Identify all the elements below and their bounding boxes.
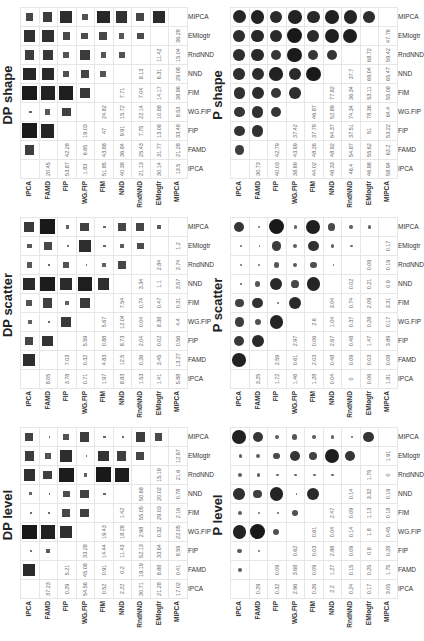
diagonal-cell [132,466,151,485]
value-cell: 38.96 [169,84,188,103]
marker-cell [58,46,77,65]
value-cell: 37.79 [305,122,324,141]
circle-marker-icon [368,225,371,228]
row-label: FIM [99,391,106,425]
square-marker-icon [80,88,90,98]
row-label: NND [328,181,335,215]
value-cell: 36.84 [113,141,132,160]
value-cell: 5.59 [76,332,95,351]
marker-cell [249,218,268,237]
chart-panel: DP scatter8.053.787.030.710.325.591.974.… [0,215,200,425]
value-cell: 0.32 [150,523,169,542]
marker-cell [76,218,95,237]
row-label: WG.FIP [291,391,298,425]
circle-marker-icon [270,278,282,290]
circle-marker-icon [291,280,299,288]
value-cell: 2.22 [113,580,132,599]
square-marker-icon [23,278,35,290]
diagonal-cell [58,332,77,351]
value-cell: 46.4 [342,160,361,179]
circle-marker-icon [240,264,242,266]
circle-marker-icon [290,451,300,461]
marker-cell [231,8,250,27]
row-label: FAMD [254,181,261,215]
marker-cell [268,523,287,542]
marker-cell [305,65,324,84]
value-cell: 50.68 [132,485,151,504]
value-cell: 54.87 [342,141,361,160]
marker-cell [76,256,95,275]
value-cell: 0.28 [379,542,398,561]
row-label: IPCA [235,391,242,425]
row-label: NND [328,601,335,635]
marker-cell [132,447,151,466]
circle-marker-icon [237,549,241,553]
value-cell: 0.14 [342,523,361,542]
marker-cell [249,485,268,504]
marker-cell [231,141,250,160]
column-label: EMlogtr [188,32,210,39]
value-cell: 1.28 [305,370,324,389]
circle-marker-icon [292,434,297,439]
column-label: FAMD [188,356,206,363]
circle-marker-icon [271,50,281,60]
value-cell: 14.44 [95,542,114,561]
marker-cell [249,466,268,485]
chart-title: P level [210,455,225,575]
square-marker-icon [100,71,106,77]
diagonal-cell [231,370,250,389]
value-cell: 46.33 [323,160,342,179]
circle-marker-icon [273,529,279,535]
marker-cell [39,447,58,466]
square-marker-icon [116,12,127,23]
marker-cell [113,46,132,65]
square-marker-icon [49,436,51,438]
value-cell: 0.02 [150,332,169,351]
marker-cell [132,27,151,46]
marker-cell [39,8,58,27]
row-label: FIP [62,181,69,215]
marker-cell [249,294,268,313]
square-marker-icon [62,509,70,517]
value-cell: 3.34 [132,275,151,294]
square-marker-icon [26,300,32,306]
marker-cell [286,46,305,65]
value-cell: 42.79 [268,141,287,160]
marker-cell [268,27,287,46]
value-cell: 7.04 [132,84,151,103]
diagonal-cell [21,370,40,389]
circle-marker-icon [344,10,357,23]
marker-cell [231,447,250,466]
circle-marker-icon [269,67,283,81]
value-cell: 11.43 [113,542,132,561]
value-cell: 0.21 [360,275,379,294]
value-cell: 0.8 [360,542,379,561]
circle-marker-icon [233,49,245,61]
square-marker-icon [102,263,106,267]
value-cell: 13.5 [169,160,188,179]
marker-cell [342,8,361,27]
row-label: FIM [309,601,316,635]
circle-marker-icon [308,50,318,60]
column-label: NND [188,70,202,77]
value-cell: 33.28 [76,542,95,561]
marker-cell [268,103,287,122]
marker-cell [342,237,361,256]
marker-cell [132,8,151,27]
marker-cell [39,218,58,237]
circle-marker-icon [252,125,263,136]
marker-cell [58,275,77,294]
value-cell: 0.61 [305,523,324,542]
circle-marker-icon [250,525,265,540]
square-marker-icon [30,550,32,552]
circle-marker-icon [306,67,321,82]
value-cell: 1.41 [150,370,169,389]
marker-cell [231,485,250,504]
row-label: MIPCA [173,181,180,215]
row-label: FIP [272,601,279,635]
circle-marker-icon [232,430,246,444]
circle-marker-icon [270,11,282,23]
row-label: FAMD [254,601,261,635]
marker-cell [113,466,132,485]
circle-marker-icon [309,452,317,460]
